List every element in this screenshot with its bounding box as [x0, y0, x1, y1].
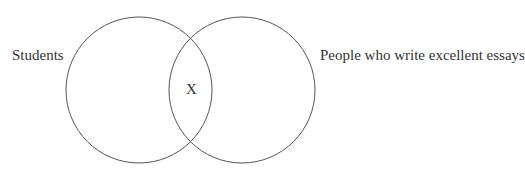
students-label: Students: [12, 48, 64, 63]
essay-writers-label: People who write excellent essays: [320, 48, 525, 63]
intersection-label: X: [186, 82, 197, 97]
